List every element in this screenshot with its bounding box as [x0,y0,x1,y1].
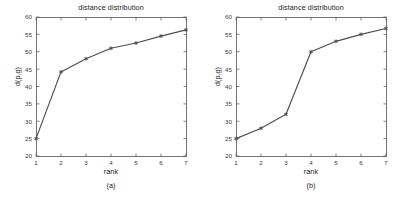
y-tick-label-b: 45 [218,66,232,73]
plot-frame-a [37,18,187,157]
x-tick-label-b: 5 [331,159,341,166]
chart-panel-a: distance distribution d(p,g) rank (a) 20… [0,0,200,200]
panel-caption-a: (a) [36,181,186,190]
y-tick-label-b: 50 [218,48,232,55]
x-tick-label-a: 2 [56,159,66,166]
x-axis-label-b: rank [236,167,386,176]
y-tick-label-a: 40 [18,83,32,90]
y-tick-label-b: 55 [218,31,232,38]
plot-frame-b [237,18,387,157]
panel-caption-b: (b) [236,181,386,190]
y-tick-label-b: 40 [218,83,232,90]
x-tick-label-b: 6 [356,159,366,166]
y-tick-label-b: 25 [218,135,232,142]
x-tick-label-a: 1 [31,159,41,166]
y-tick-label-a: 45 [18,66,32,73]
y-tick-label-b: 30 [218,118,232,125]
x-tick-label-a: 3 [81,159,91,166]
x-tick-label-b: 1 [231,159,241,166]
y-tick-label-b: 20 [218,152,232,159]
y-tick-label-a: 60 [18,13,32,20]
x-tick-label-a: 4 [106,159,116,166]
chart-panel-b: distance distribution d(p,g) rank (b) 20… [200,0,401,200]
y-tick-label-a: 30 [18,118,32,125]
x-tick-label-b: 4 [306,159,316,166]
y-tick-label-a: 25 [18,135,32,142]
data-line-b [236,28,386,138]
x-tick-label-a: 6 [156,159,166,166]
x-tick-label-a: 5 [131,159,141,166]
x-axis-label-a: rank [36,167,186,176]
y-tick-label-a: 55 [18,31,32,38]
y-tick-label-a: 35 [18,100,32,107]
y-tick-label-b: 35 [218,100,232,107]
x-tick-label-a: 7 [181,159,191,166]
x-tick-label-b: 3 [281,159,291,166]
x-tick-label-b: 7 [381,159,391,166]
y-tick-label-b: 60 [218,13,232,20]
data-line-a [36,30,186,139]
figure-container: distance distribution d(p,g) rank (a) 20… [0,0,401,200]
y-tick-label-a: 50 [18,48,32,55]
x-tick-label-b: 2 [256,159,266,166]
y-tick-label-a: 20 [18,152,32,159]
